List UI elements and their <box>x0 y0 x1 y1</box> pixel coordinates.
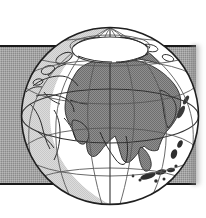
globe-graphic <box>0 0 206 218</box>
globe-illustration <box>0 0 206 218</box>
landmass-australia <box>150 193 190 208</box>
